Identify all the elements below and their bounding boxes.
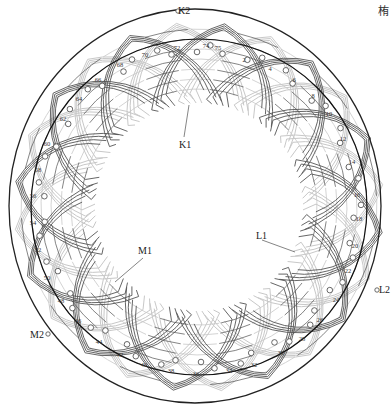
slot-number-label: 48 [58,297,65,304]
slot-marker [287,339,293,345]
slot-marker [129,57,135,63]
slot-marker [55,268,61,274]
slot-marker [198,359,204,365]
slot-marker [44,259,50,265]
leader-line-l1 [262,240,295,252]
slot-marker [358,202,364,208]
slot-marker [340,280,346,286]
slot-marker [327,287,333,293]
slot-number-label: 16 [354,191,361,198]
slot-marker [238,361,244,367]
slot-marker [42,193,48,199]
slot-marker [272,340,278,346]
slot-number-label: 2 [242,56,245,63]
slot-marker [169,52,175,58]
slot-marker [173,357,179,363]
slot-marker [68,291,74,297]
slot-number-label: 52 [35,246,42,253]
slot-marker-layer [36,43,364,372]
slot-marker [36,180,42,186]
slot-number-label: 42 [117,351,124,358]
slot-number-label: 58 [35,166,42,173]
slot-number-label: 26 [317,316,324,323]
slot-number-label: 32 [251,361,258,368]
slot-marker [67,106,73,112]
winding-diagram: 2468101214161820222426283032343638404244… [0,0,391,420]
slot-marker [346,164,352,170]
slot-number-label: 20 [352,242,359,249]
slot-number-label: 14 [349,158,356,165]
slot-number-label: 66 [95,76,102,83]
slot-number-label: 62 [60,115,67,122]
slot-number-label: 10 [326,110,333,117]
slot-marker [42,154,48,160]
slot-marker [54,144,60,150]
slot-marker [133,353,139,359]
slot-marker [70,305,76,311]
slot-marker [159,362,165,368]
slot-number-label: 36 [193,370,200,377]
slot-number-label: 4 [268,65,272,72]
slot-number-label: 12 [340,135,347,142]
slot-number-label: 30 [278,349,285,356]
slot-marker [248,350,254,356]
slot-number-label: 64 [76,95,83,102]
terminal-label-l2: L2 [379,284,390,295]
slot-number-label: 40 [141,361,148,368]
slot-marker [99,83,105,89]
slot-number-label: 72 [174,44,181,51]
slot-marker [124,342,130,348]
slot-number-label: 68 [117,61,124,68]
slot-number-label: 46 [75,317,82,324]
slot-number-label: 50 [44,274,51,281]
light-coil-layer [15,23,382,390]
corner-glyph: 栯 [378,2,389,18]
slot-marker [154,48,160,54]
slot-marker [103,328,109,334]
slot-marker [37,233,43,239]
leader-line-m1 [115,258,143,282]
terminal-label-k2: K2 [178,5,190,16]
slot-number-label: 75 [215,44,222,51]
slot-marker [356,176,362,182]
terminal-label-m2: M2 [30,329,44,340]
slot-marker [350,255,356,261]
slot-number-label: 28 [299,335,306,342]
slot-number-label: 70 [142,51,149,58]
slot-number-label: 24 [333,296,340,303]
slot-marker [312,308,318,314]
slot-number-label: 38 [168,367,175,374]
slot-marker [85,86,91,92]
slot-marker [194,49,200,55]
slot-number-label: 54 [30,219,37,226]
slot-number-label: 18 [356,215,363,222]
slot-number-label: 34 [226,367,233,374]
slot-marker [307,322,313,328]
terminal-dot-m2 [46,332,50,336]
slot-number-label: 56 [30,192,37,199]
slot-marker [42,219,48,225]
slot-marker [283,68,289,74]
slot-marker [338,125,344,131]
slot-marker [88,325,94,331]
slot-number-label: 44 [96,338,103,345]
slot-number-label: 8 [311,92,314,99]
slot-marker [259,55,265,61]
terminal-label-l1: L1 [256,230,267,241]
slot-number-label: 74 [203,42,210,49]
slot-marker [323,103,329,109]
slot-number-label: 60 [44,140,51,147]
terminal-label-k1: K1 [179,139,191,150]
slot-marker [121,69,127,75]
slot-marker [220,51,226,57]
leader-line-k1 [184,105,189,137]
terminal-label-m1: M1 [138,245,152,256]
slot-number-label: 22 [345,267,352,274]
slot-marker [212,366,218,372]
